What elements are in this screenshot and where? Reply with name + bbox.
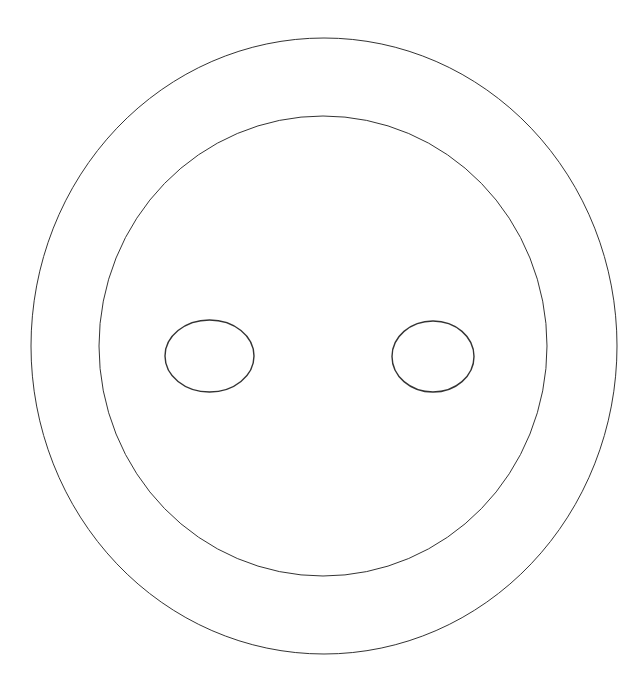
outer-ellipse bbox=[31, 38, 617, 654]
right-eye-ellipse bbox=[392, 321, 474, 392]
left-eye-ellipse bbox=[165, 320, 254, 392]
diagram-canvas bbox=[0, 0, 642, 689]
